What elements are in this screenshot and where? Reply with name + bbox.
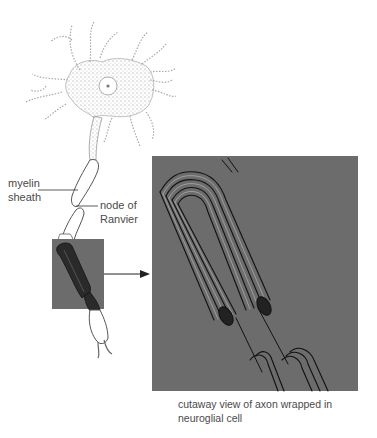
label-myelin-line1: myelin (8, 176, 41, 190)
label-node-of-ranvier: node of Ranvier (100, 198, 138, 226)
caption-line1: cutaway view of axon wrapped in (178, 397, 332, 411)
label-myelin-line2: sheath (8, 190, 41, 204)
label-node-line2: Ranvier (100, 212, 138, 226)
myelin-segment-3 (89, 310, 108, 344)
myelin-segment-1 (71, 159, 98, 206)
arrowhead-icon (140, 270, 150, 278)
figure-caption: cutaway view of axon wrapped in neurogli… (178, 397, 332, 425)
neuron-illustration (0, 0, 377, 438)
axon-upper (89, 116, 102, 160)
label-node-line1: node of (100, 198, 138, 212)
label-myelin-sheath: myelin sheath (8, 176, 41, 204)
caption-line2: neuroglial cell (178, 411, 332, 425)
neuron-diagram: myelin sheath node of Ranvier cutaway vi… (0, 0, 377, 438)
